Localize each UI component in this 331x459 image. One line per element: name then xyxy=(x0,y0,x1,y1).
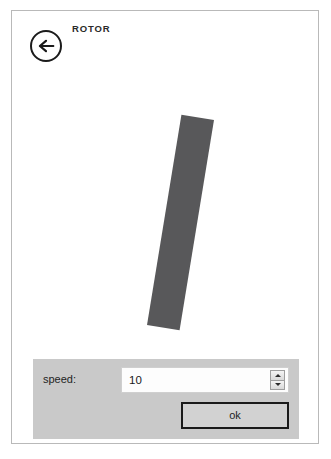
speed-label: speed: xyxy=(43,373,76,385)
control-panel: speed: ok xyxy=(33,359,299,439)
speed-spinner[interactable] xyxy=(121,367,289,393)
arrow-left-icon xyxy=(38,39,55,53)
spinner-increment-button[interactable] xyxy=(270,370,285,381)
rotor-bar xyxy=(147,115,214,331)
rotor-dialog-window: ROTOR speed: ok xyxy=(11,10,319,444)
rotor-canvas xyxy=(12,73,318,359)
page-title: ROTOR xyxy=(72,23,111,34)
ok-button[interactable]: ok xyxy=(181,402,289,429)
dialog-header: ROTOR xyxy=(12,11,318,73)
speed-field-row: speed: xyxy=(33,367,299,393)
triangle-up-icon xyxy=(275,374,281,377)
back-button[interactable] xyxy=(30,30,62,62)
spinner-buttons xyxy=(270,370,285,390)
triangle-down-icon xyxy=(275,383,281,386)
spinner-decrement-button[interactable] xyxy=(270,381,285,391)
speed-input[interactable] xyxy=(122,368,268,392)
